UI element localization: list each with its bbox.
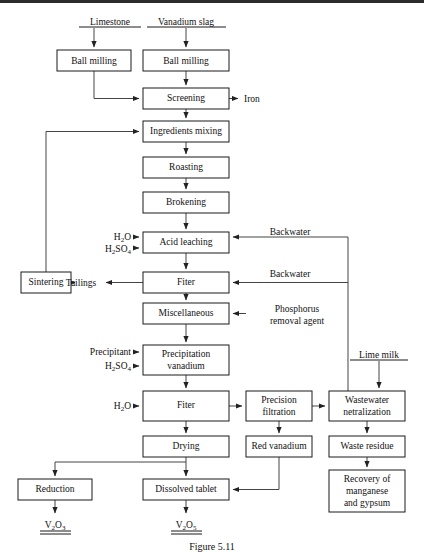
box-label-line-2: netralization xyxy=(343,407,391,417)
source-label-limestone: Limestone xyxy=(90,17,130,27)
product-label-v2o5: V2O5 xyxy=(176,520,197,532)
box-label: Fiter xyxy=(177,400,196,410)
stream-label-phosphorus-removal-agent-line-2: removal agent xyxy=(270,316,324,326)
box-label: Reduction xyxy=(35,484,74,494)
box-ingredients-mixing[interactable]: Ingredients mixing xyxy=(143,121,229,142)
box-label: Roasting xyxy=(169,162,203,172)
box-miscellaneous[interactable]: Miscellaneous xyxy=(143,303,229,324)
source-label-lime-milk: Lime milk xyxy=(359,350,399,360)
box-label-line-2: vanadium xyxy=(167,361,205,371)
box-drying[interactable]: Drying xyxy=(143,436,229,457)
flowchart-svg: Ball milling Ball milling Screening Ingr… xyxy=(0,0,424,552)
box-roasting[interactable]: Roasting xyxy=(143,157,229,178)
box-acid-leaching[interactable]: Acid leaching xyxy=(143,232,229,253)
stream-label-tailings: Tailings xyxy=(66,278,97,288)
box-label-line-1: Precision xyxy=(261,395,297,405)
box-precision-filtration[interactable]: Precision filtration xyxy=(246,391,312,421)
figure-caption: Figure 5.11 xyxy=(189,541,235,552)
box-label-line-1: Precipitation xyxy=(162,349,211,359)
box-ball-milling-left[interactable]: Ball milling xyxy=(57,50,131,71)
reagent-label-h2o-acid-leaching: H2O xyxy=(114,232,131,244)
box-wastewater-netralization[interactable]: Wastewater netralization xyxy=(329,391,405,421)
box-brokening[interactable]: Brokening xyxy=(143,192,229,213)
box-red-vanadium[interactable]: Red vanadium xyxy=(246,436,312,457)
box-label: Ingredients mixing xyxy=(150,126,222,136)
box-label: Ball milling xyxy=(71,56,117,66)
box-label: Drying xyxy=(173,441,200,451)
edge-ball-milling-left-to-screening xyxy=(94,71,139,99)
box-label: Fiter xyxy=(177,277,196,287)
box-label: Red vanadium xyxy=(251,441,307,451)
source-label-vanadium-slag: Vanadium slag xyxy=(158,17,214,27)
box-label: Miscellaneous xyxy=(159,308,214,318)
box-label-line-1: Wastewater xyxy=(345,395,390,405)
box-fiter-1[interactable]: Fiter xyxy=(143,272,229,293)
box-reduction[interactable]: Reduction xyxy=(18,479,92,500)
box-waste-residue[interactable]: Waste residue xyxy=(329,436,405,457)
box-precipitation-vanadium[interactable]: Precipitation vanadium xyxy=(143,345,229,375)
stream-label-backwater-acid-leaching: Backwater xyxy=(270,227,311,237)
box-label-line-1: Recovery of xyxy=(344,474,392,484)
reagent-label-precipitant: Precipitant xyxy=(90,347,132,357)
stream-label-backwater-fiter: Backwater xyxy=(270,269,311,279)
box-label: Sintering xyxy=(29,277,64,287)
box-sintering[interactable]: Sintering xyxy=(21,272,71,293)
box-screening[interactable]: Screening xyxy=(143,88,229,109)
box-recovery-of-manganese-and-gypsum[interactable]: Recovery of manganese and gypsum xyxy=(329,470,405,512)
box-dissolved-tablet[interactable]: Dissolved tablet xyxy=(143,479,229,500)
edge-drying-to-reduction xyxy=(55,462,186,476)
box-label: Ball milling xyxy=(163,56,209,66)
box-label-line-3: and gypsum xyxy=(344,498,391,508)
box-label: Acid leaching xyxy=(159,237,212,247)
box-fiter-2[interactable]: Fiter xyxy=(143,391,229,421)
box-label: Brokening xyxy=(166,197,206,207)
box-label-line-2: manganese xyxy=(346,486,388,496)
stream-label-phosphorus-removal-agent-line-1: Phosphorus xyxy=(275,304,320,314)
reagent-label-h2so4-acid-leaching: H2SO4 xyxy=(105,244,132,256)
figure-canvas: Ball milling Ball milling Screening Ingr… xyxy=(0,0,424,552)
product-label-v2o3: V2O3 xyxy=(45,520,66,532)
box-ball-milling-right[interactable]: Ball milling xyxy=(143,50,229,71)
reagent-label-h2so4-precipitation: H2SO4 xyxy=(105,361,132,373)
reagent-label-h2o-fiter-2: H2O xyxy=(114,401,131,413)
box-label: Screening xyxy=(167,93,205,103)
box-label: Waste residue xyxy=(341,441,394,451)
box-label: Dissolved tablet xyxy=(155,484,217,494)
edge-red-vanadium-to-dissolved-tablet xyxy=(233,457,279,490)
stream-label-iron: Iron xyxy=(244,94,260,104)
box-label-line-2: filtration xyxy=(262,407,295,417)
edge-backwater-to-acid-leaching xyxy=(233,237,348,391)
